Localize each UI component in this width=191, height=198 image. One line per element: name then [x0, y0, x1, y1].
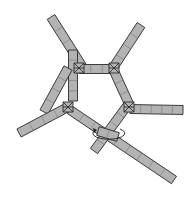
bar-upper-left-arm [47, 15, 86, 69]
joint-left [63, 102, 73, 112]
bar-vertical [69, 50, 78, 101]
joint-top-left [74, 63, 84, 73]
bars-layer [17, 15, 183, 184]
joint-right [124, 102, 134, 112]
bar-right-arm [130, 105, 183, 115]
bar-right-edge [110, 69, 133, 106]
joint-top-right [109, 63, 119, 73]
linkage-diagram [0, 0, 191, 198]
